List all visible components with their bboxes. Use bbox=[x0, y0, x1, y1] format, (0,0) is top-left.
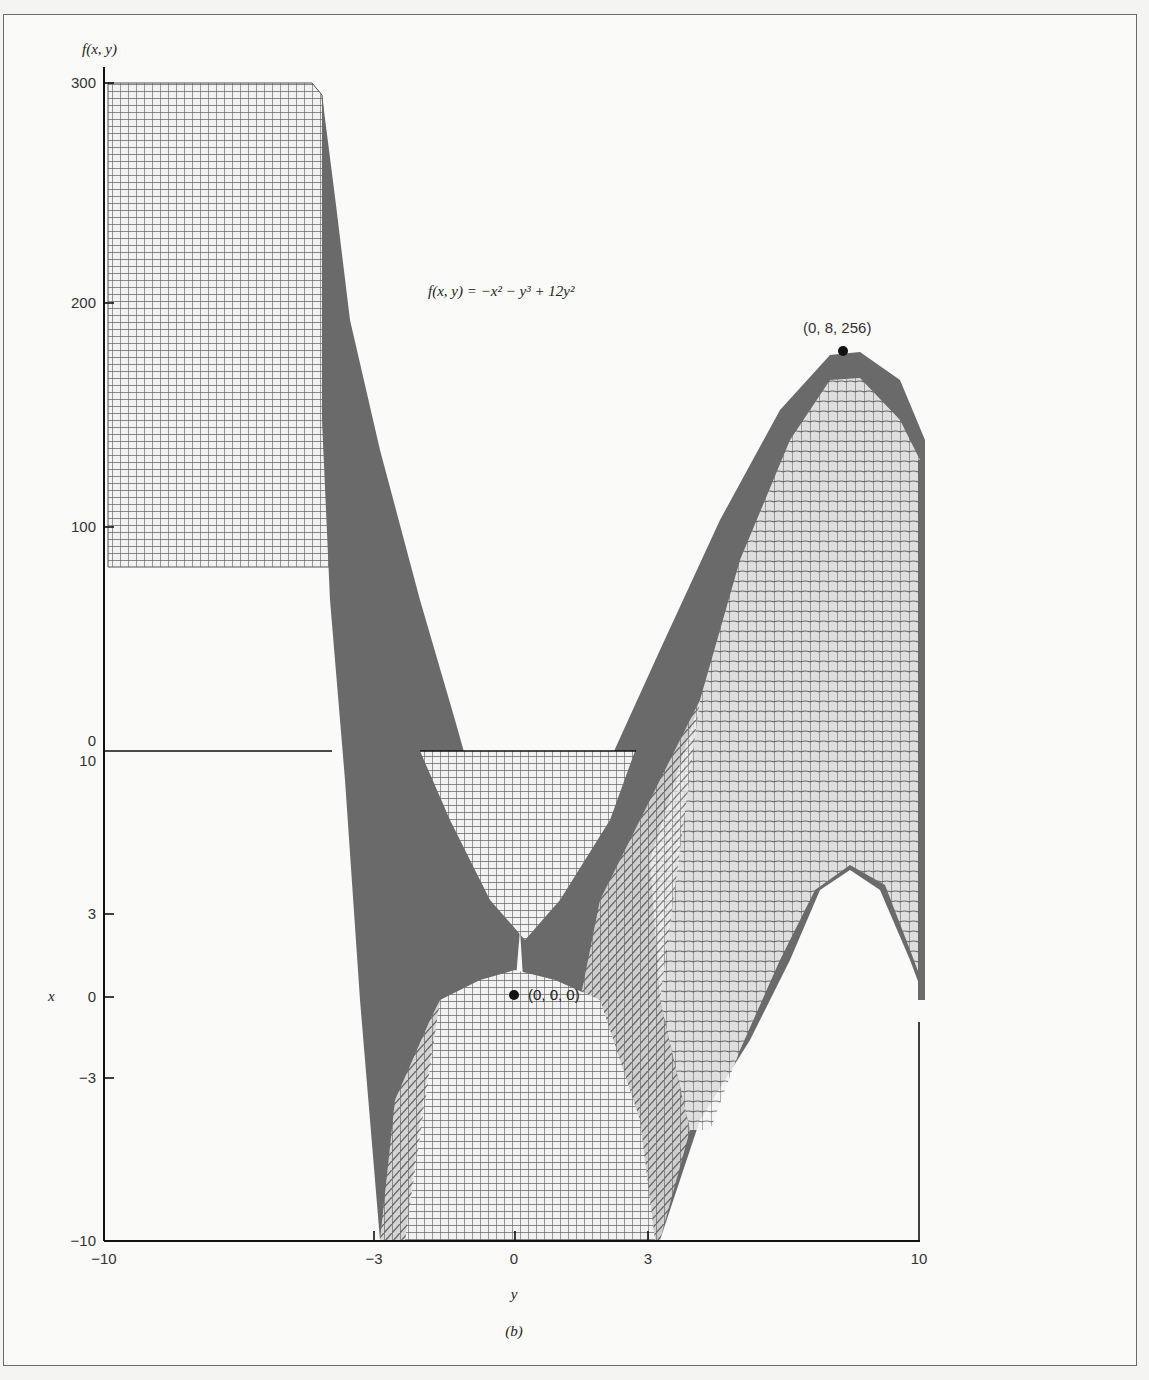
z-tick-100: 100 bbox=[36, 518, 96, 535]
saddle-point-marker bbox=[509, 990, 519, 1000]
max-point-marker bbox=[838, 346, 848, 356]
formula-label: f(x, y) = −x² − y³ + 12y² bbox=[428, 283, 574, 300]
x-tick-neg3: −3 bbox=[36, 1069, 96, 1086]
x-axis-label: x bbox=[48, 988, 55, 1005]
plateau-left bbox=[108, 83, 340, 567]
x-tick-neg10: −10 bbox=[36, 1232, 96, 1249]
x-tick-0: 0 bbox=[36, 988, 96, 1005]
y-tick-10: 10 bbox=[889, 1250, 949, 1267]
y-tick-neg3: −3 bbox=[344, 1250, 404, 1267]
x-tick-3: 3 bbox=[36, 905, 96, 922]
y-tick-3: 3 bbox=[618, 1250, 678, 1267]
z-tick-300: 300 bbox=[36, 74, 96, 91]
max-point-label: (0, 8, 256) bbox=[803, 319, 871, 336]
x-tick-10: 10 bbox=[36, 752, 96, 769]
figure-caption: (b) bbox=[484, 1323, 544, 1340]
z-tick-200: 200 bbox=[36, 294, 96, 311]
z-tick-0: 0 bbox=[36, 732, 96, 749]
x-axis bbox=[104, 914, 114, 1078]
y-axis-label: y bbox=[484, 1286, 544, 1303]
saddle-point-label: (0, 0, 0) bbox=[528, 986, 580, 1003]
z-axis-label: f(x, y) bbox=[82, 41, 117, 58]
surface-plot bbox=[0, 0, 1149, 1380]
y-tick-neg10: −10 bbox=[74, 1250, 134, 1267]
y-tick-0: 0 bbox=[484, 1250, 544, 1267]
